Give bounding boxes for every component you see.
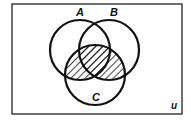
set-b-label: B	[110, 6, 118, 18]
set-c-label: C	[92, 91, 101, 103]
universal-set-label: u	[171, 100, 177, 111]
set-a-label: A	[75, 6, 84, 18]
venn-diagram: A B C u	[0, 0, 191, 122]
